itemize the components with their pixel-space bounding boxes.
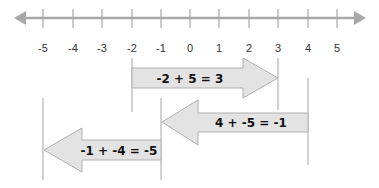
equation-label: 4 + -5 = -1 [215, 116, 287, 130]
equation-arrow-3: -1 + -4 = -5 [44, 128, 161, 172]
equation-arrow-2: 4 + -5 = -1 [162, 100, 308, 145]
tick-label: 0 [187, 42, 193, 54]
tick-label: 4 [305, 42, 311, 54]
tick-label: -3 [97, 42, 107, 54]
tick-label: -2 [127, 42, 137, 54]
tick-label: -4 [68, 42, 78, 54]
number-line-diagram: -5 -4 -3 -2 -1 0 1 2 3 4 5 -2 + 5 = 3 4 … [0, 0, 379, 188]
left-arrowhead-icon [14, 11, 26, 25]
equation-label: -1 + -4 = -5 [81, 144, 158, 158]
tick-labels: -5 -4 -3 -2 -1 0 1 2 3 4 5 [38, 42, 340, 54]
equation-label: -2 + 5 = 3 [157, 72, 224, 86]
tick-label: 1 [216, 42, 222, 54]
right-arrowhead-icon [354, 11, 366, 25]
tick-label: -5 [38, 42, 48, 54]
tick-label: 5 [334, 42, 340, 54]
tick-label: 2 [246, 42, 252, 54]
number-line: -5 -4 -3 -2 -1 0 1 2 3 4 5 [14, 9, 366, 54]
tick-label: -1 [156, 42, 166, 54]
tick-label: 3 [275, 42, 281, 54]
equation-arrow-1: -2 + 5 = 3 [132, 58, 278, 98]
